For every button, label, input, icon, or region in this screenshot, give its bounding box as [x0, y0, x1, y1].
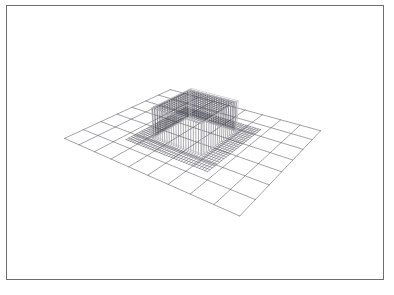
surface-plot-viewport	[0, 0, 394, 295]
surface-plot-canvas	[7, 6, 383, 279]
plot-frame	[6, 5, 384, 280]
